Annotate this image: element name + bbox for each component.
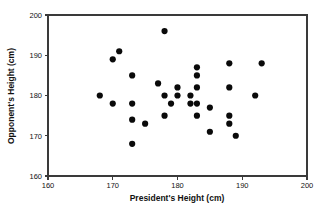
x-tick-label: 200 <box>301 181 314 190</box>
data-point <box>207 129 213 135</box>
plot-canvas: 160170180190200 160170180190200 Presiden… <box>0 0 327 213</box>
data-point <box>142 121 148 127</box>
data-point <box>187 100 193 106</box>
y-tick-label: 180 <box>29 91 42 100</box>
data-point <box>194 84 200 90</box>
data-point <box>259 60 265 66</box>
data-point <box>207 104 213 110</box>
data-point <box>233 133 239 139</box>
data-point <box>161 113 167 119</box>
data-point <box>155 80 161 86</box>
data-point <box>226 84 232 90</box>
data-point <box>129 117 135 123</box>
y-tick-label: 160 <box>29 172 42 181</box>
data-point <box>168 100 174 106</box>
y-tick-label: 200 <box>29 11 42 20</box>
data-point <box>194 64 200 70</box>
x-tick-label: 180 <box>171 181 184 190</box>
y-axis-title: Opponent's Height (cm) <box>6 48 16 144</box>
x-tick-label: 190 <box>236 181 249 190</box>
y-axis-ticks: 160170180190200 <box>29 11 48 181</box>
data-point <box>161 28 167 34</box>
data-point <box>187 92 193 98</box>
y-tick-label: 170 <box>29 132 42 141</box>
data-point <box>129 141 135 147</box>
data-point <box>110 100 116 106</box>
data-point <box>194 72 200 78</box>
data-point <box>226 113 232 119</box>
y-tick-label: 190 <box>29 51 42 60</box>
data-point <box>110 56 116 62</box>
x-tick-label: 170 <box>106 181 119 190</box>
data-point <box>129 72 135 78</box>
x-axis-ticks: 160170180190200 <box>42 176 314 190</box>
data-point <box>226 60 232 66</box>
data-point <box>116 48 122 54</box>
data-point <box>129 100 135 106</box>
data-point <box>174 92 180 98</box>
data-point <box>174 84 180 90</box>
data-point <box>252 92 258 98</box>
data-point <box>97 92 103 98</box>
x-tick-label: 160 <box>42 181 55 190</box>
data-point <box>194 113 200 119</box>
data-point <box>226 121 232 127</box>
data-point <box>161 92 167 98</box>
data-point <box>194 100 200 106</box>
x-axis-title: President's Height (cm) <box>130 193 225 203</box>
scatter-plot-figure: 160170180190200 160170180190200 Presiden… <box>0 0 327 213</box>
